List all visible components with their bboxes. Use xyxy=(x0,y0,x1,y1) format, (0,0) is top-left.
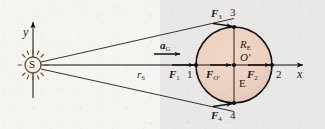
distance-label-rs: rS xyxy=(137,69,145,82)
force-FOprime-label: FO′ xyxy=(206,69,220,82)
point-2-label: 2 xyxy=(276,69,282,80)
point-1-label: 1 xyxy=(187,69,193,80)
distance-label-sub: S xyxy=(141,74,145,81)
acceleration-label: aG xyxy=(160,40,170,53)
earth-body-label: E xyxy=(239,78,246,89)
point-4-label: 4 xyxy=(230,110,236,121)
earth-radius-label: RE xyxy=(240,39,251,52)
y-axis-label: y xyxy=(23,26,28,38)
force-F4-label: F4 xyxy=(211,110,222,123)
point-4-dot xyxy=(232,101,236,105)
acceleration-label-sub: G xyxy=(166,45,171,52)
earth-radius-base: R xyxy=(240,38,247,50)
force-F3-label: F3 xyxy=(211,8,222,21)
point-3-dot xyxy=(232,25,236,29)
force-F2-sub: 2 xyxy=(254,74,257,81)
force-F2-label: F2 xyxy=(247,69,258,82)
x-axis-label: x xyxy=(297,68,302,80)
force-FOprime-sub: O′ xyxy=(213,74,219,81)
diagram-svg xyxy=(0,0,325,129)
point-1-dot xyxy=(194,63,198,67)
earth-radius-sub: E xyxy=(247,44,251,51)
sun-label: S xyxy=(29,59,35,70)
force-F1-sub: 1 xyxy=(176,74,179,81)
figure-canvas: y x S rS aG F1 1 FO′ F2 2 F3 3 F4 4 RE O… xyxy=(0,0,325,129)
point-2-dot xyxy=(270,63,274,67)
point-3-label: 3 xyxy=(230,7,236,18)
point-Oprime-dot xyxy=(232,63,236,67)
force-F3-sub: 3 xyxy=(218,13,221,20)
force-F4-sub: 4 xyxy=(218,115,221,122)
force-F1-label: F1 xyxy=(169,69,180,82)
earth-center-label: O′ xyxy=(240,52,250,63)
